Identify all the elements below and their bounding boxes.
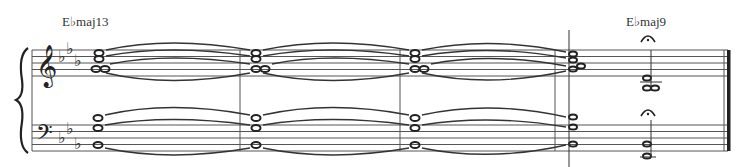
svg-text:♭: ♭: [58, 128, 66, 147]
svg-text:♭: ♭: [66, 119, 74, 138]
svg-text:♭: ♭: [74, 134, 82, 153]
svg-text:♭: ♭: [74, 51, 82, 70]
svg-text:𝄢: 𝄢: [36, 120, 53, 150]
svg-text:♭: ♭: [66, 39, 74, 58]
svg-text:𝄞: 𝄞: [36, 45, 57, 88]
music-staff-system: 𝄞 𝄢 ♭♭♭ ♭♭♭: [0, 0, 743, 167]
svg-text:♭: ♭: [58, 47, 66, 66]
